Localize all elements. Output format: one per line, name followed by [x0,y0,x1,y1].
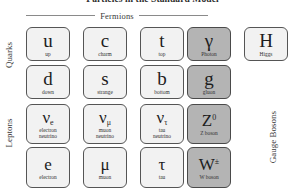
particle-caption: down [42,89,54,95]
particle-caption: Higgs [260,51,273,57]
particle-cell[interactable]: ddown [26,65,70,99]
particle-caption: electron neutrino [39,127,57,139]
particle-caption: gluon [203,89,215,95]
particle-symbol: s [101,69,108,88]
particle-symbol-subscript: μ [107,118,111,127]
particle-symbol: b [157,69,167,88]
particle-cell[interactable]: Z0Z boson [187,104,231,144]
particle-caption: W boson [199,174,218,180]
particle-cell[interactable]: ντtau neutrino [140,104,184,144]
particle-caption: bottom [154,89,169,95]
particle-caption: Z boson [200,130,218,136]
particle-caption: strange [97,89,113,95]
particle-symbol-subscript: e [50,118,54,127]
particle-caption: muon [99,174,111,180]
particle-cell[interactable]: uup [26,27,70,61]
particle-cell[interactable]: μmuon [83,147,127,188]
particle-caption: Photon [201,51,216,57]
particle-caption: tau neutrino [153,127,171,139]
particle-symbol: γ [205,31,213,50]
particle-cell[interactable]: τtau [140,147,184,188]
particle-grid: uupccharmttopγPhotonHHiggsddownsstrangeb… [0,0,305,196]
particle-cell[interactable]: νμmuon neutrino [83,104,127,144]
particle-symbol: Z0 [202,112,216,129]
particle-cell[interactable]: W±W boson [187,147,231,188]
particle-symbol: t [159,31,164,50]
particle-cell[interactable]: ttop [140,27,184,61]
particle-symbol: e [44,156,52,173]
particle-cell[interactable]: bbottom [140,65,184,99]
particle-caption: top [159,51,166,57]
particle-symbol: ντ [157,109,168,126]
group-label-leptons: Leptons [4,110,14,156]
particle-symbol: W± [199,156,219,173]
particle-caption: up [45,51,50,57]
standard-model-chart: Particles in the Standard Model Fermions… [0,0,305,196]
particle-symbol: μ [100,156,109,173]
particle-cell[interactable]: γPhoton [187,27,231,61]
particle-symbol: τ [159,156,166,173]
particle-cell[interactable]: eelectron [26,147,70,188]
particle-symbol: νe [42,109,53,126]
particle-symbol-superscript: ± [215,157,219,166]
particle-symbol: H [259,31,273,50]
particle-cell[interactable]: HHiggs [244,27,288,61]
particle-caption: tau [159,174,166,180]
particle-symbol-subscript: τ [164,118,167,127]
particle-cell[interactable]: ccharm [83,27,127,61]
particle-cell[interactable]: νeelectron neutrino [26,104,70,144]
particle-caption: electron [39,174,56,180]
particle-symbol-superscript: 0 [212,113,216,122]
particle-symbol: νμ [99,109,111,126]
particle-symbol: d [43,69,53,88]
particle-symbol: c [101,31,109,50]
particle-caption: muon neutrino [96,127,114,139]
particle-symbol: u [43,31,53,50]
particle-cell[interactable]: sstrange [83,65,127,99]
particle-caption: charm [98,51,111,57]
particle-cell[interactable]: ggluon [187,65,231,99]
group-label-quarks: Quarks [4,32,14,78]
group-label-gauge-bosons: Gauge Bosons [268,82,278,192]
particle-symbol: g [204,69,214,88]
